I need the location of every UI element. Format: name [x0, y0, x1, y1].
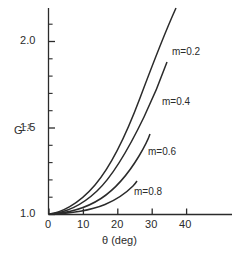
y-axis-label-exponent: −1	[23, 122, 32, 131]
curve-label-m-0-6: m=0.6	[148, 146, 176, 157]
x-tick-label-2: 10	[77, 218, 89, 230]
curve-label-m-0-2: m=0.2	[172, 46, 200, 57]
curve-m-0-6	[49, 134, 150, 214]
curve-m-0-8	[49, 181, 137, 214]
y-axis-label: G−1	[14, 122, 31, 136]
curve-m-0-2	[49, 8, 176, 214]
y-axis-label-base: G	[14, 124, 23, 136]
x-tick-label-5: 40	[179, 218, 191, 230]
y-tick-label-3: 2.0	[20, 34, 36, 46]
x-tick-label-3: 20	[111, 218, 123, 230]
y-major-ticks	[49, 42, 56, 215]
x-tick-label-4: 30	[145, 218, 157, 230]
chart-figure: 1.0 1.5 2.0 0 10 20 30 40 G−1 θ (deg) m=…	[0, 0, 238, 256]
curve-label-m-0-4: m=0.4	[162, 96, 190, 107]
x-axis-label: θ (deg)	[102, 234, 137, 246]
y-tick-label-1: 1.0	[20, 207, 36, 219]
x-tick-label-1: 0	[45, 218, 51, 230]
curve-label-m-0-8: m=0.8	[134, 186, 162, 197]
